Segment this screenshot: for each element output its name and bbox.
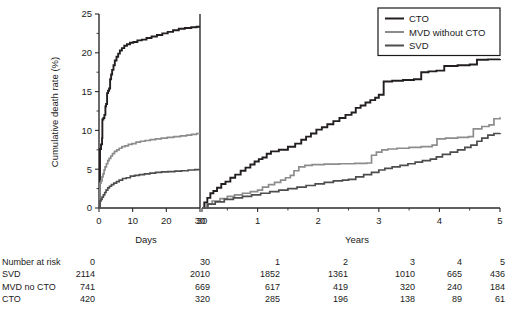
y-axis: 0510152025 <box>81 8 99 213</box>
risk-table-cell: 741 <box>80 282 95 292</box>
legend-label-cto: CTO <box>409 13 429 24</box>
curves-days-panel <box>99 27 200 208</box>
years-tick-label: 30 <box>197 215 208 226</box>
years-tick-label: 2 <box>316 215 321 226</box>
y-tick-label: 5 <box>87 164 92 175</box>
y-tick-label: 25 <box>81 8 92 19</box>
risk-table-cell: 669 <box>195 282 210 292</box>
risk-table-cell: 2010 <box>190 269 210 279</box>
risk-table-row-label: SVD <box>2 269 21 279</box>
years-axis-title: Years <box>345 234 369 245</box>
days-tick-label: 20 <box>161 215 172 226</box>
risk-table-column-header: 4 <box>457 257 462 267</box>
y-tick-label: 15 <box>81 86 92 97</box>
risk-table-cell: 1361 <box>328 269 348 279</box>
risk-table-cell: 436 <box>490 269 505 279</box>
risk-table-cell: 184 <box>490 282 505 292</box>
risk-table-column-header: 30 <box>200 257 210 267</box>
risk-table-cell: 1010 <box>395 269 415 279</box>
years-tick-label: 1 <box>255 215 260 226</box>
years-tick-label: 4 <box>437 215 442 226</box>
risk-table-column-header: 1 <box>275 257 280 267</box>
kaplan-meier-figure: Cumulative death rate (%) 0510152025 010… <box>0 0 509 311</box>
risk-table-cell: 285 <box>265 294 280 304</box>
risk-table-row-label: CTO <box>2 294 21 304</box>
risk-table-header-label: Number at risk <box>2 257 61 267</box>
curve-years-cto <box>202 59 500 208</box>
days-tick-label: 10 <box>127 215 138 226</box>
y-axis-label: Cumulative death rate (%) <box>49 57 60 167</box>
risk-table-cell: 320 <box>195 294 210 304</box>
days-axis: 0102030 <box>96 14 205 226</box>
curves-years-panel <box>202 59 500 208</box>
risk-table-column-header: 2 <box>343 257 348 267</box>
y-tick-label: 0 <box>87 202 92 213</box>
risk-table-cell: 1852 <box>260 269 280 279</box>
days-tick-label: 0 <box>96 215 101 226</box>
y-tick-label: 10 <box>81 125 92 136</box>
curve-days-cto <box>99 27 200 208</box>
years-tick-label: 5 <box>497 215 502 226</box>
years-axis: 3012345 <box>197 208 503 226</box>
risk-table-cell: 617 <box>265 282 280 292</box>
risk-table-column-header: 0 <box>90 257 95 267</box>
risk-table-cell: 61 <box>495 294 505 304</box>
legend-label-mvd-without-cto: MVD without CTO <box>409 27 485 38</box>
risk-table-cell: 89 <box>452 294 462 304</box>
risk-table-column-header: 3 <box>410 257 415 267</box>
days-axis-title: Days <box>135 234 157 245</box>
cumulative-death-rate-chart: Cumulative death rate (%) 0510152025 010… <box>0 0 509 311</box>
risk-table-cell: 240 <box>447 282 462 292</box>
y-tick-label: 20 <box>81 47 92 58</box>
number-at-risk-table: Number at risk03012345SVD211420101852136… <box>2 257 505 304</box>
curve-days-svd <box>99 170 200 208</box>
risk-table-cell: 665 <box>447 269 462 279</box>
legend-label-svd: SVD <box>409 40 429 51</box>
risk-table-cell: 196 <box>333 294 348 304</box>
risk-table-cell: 138 <box>400 294 415 304</box>
curve-years-svd <box>202 133 500 208</box>
risk-table-cell: 2114 <box>76 269 95 279</box>
risk-table-column-header: 5 <box>500 257 505 267</box>
years-tick-label: 3 <box>376 215 381 226</box>
curve-years-mvd-without-cto <box>202 117 500 208</box>
risk-table-cell: 420 <box>80 294 95 304</box>
risk-table-cell: 320 <box>400 282 415 292</box>
risk-table-cell: 419 <box>333 282 348 292</box>
chart-legend: CTOMVD without CTOSVD <box>378 8 500 56</box>
risk-table-row-label: MVD no CTO <box>2 282 56 292</box>
